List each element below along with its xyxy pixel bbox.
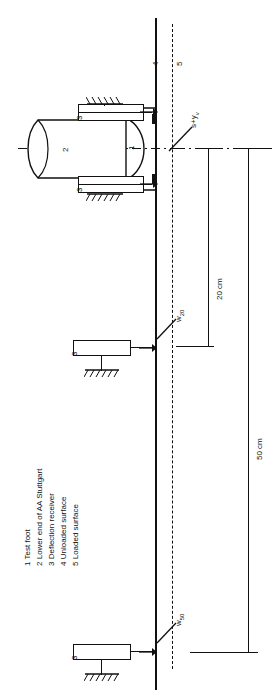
deflection-label-s-plus-y: s+yv — [190, 112, 200, 128]
legend-num-5: 5 — [71, 562, 80, 566]
s-plus-y-text: s+y — [189, 115, 198, 128]
ground-support-middle-icon — [84, 369, 120, 383]
dim50-line — [248, 148, 249, 652]
deflection-label-w50: w50 — [175, 614, 185, 626]
loaded-surface-line — [172, 24, 173, 669]
legend-item-1: 1 Test foot — [24, 529, 32, 566]
receiver-bottom-arrow-icon — [139, 646, 157, 658]
legend-text-4: Unloaded surface — [59, 497, 68, 560]
cylinder-part-2 — [26, 118, 130, 180]
label-1: 1 — [128, 146, 136, 150]
legend-num-3: 3 — [47, 562, 56, 566]
dimension-50cm-label: 50 cm — [256, 438, 264, 460]
receiver-top-arrow-icon — [140, 106, 158, 118]
dim20-line — [208, 148, 209, 346]
label-3-bottom: 3 — [71, 656, 79, 660]
right-axis-marker — [248, 155, 249, 191]
legend-text-5: Loaded surface — [71, 504, 80, 559]
legend-text-3: Deflection receiver — [47, 493, 56, 559]
deflection-label-w20: w20 — [175, 310, 185, 322]
dimension-20cm-label: 20 cm — [216, 278, 224, 300]
legend-item-3: 3 Deflection receiver — [48, 493, 56, 566]
legend-text-2: Lower end of AA Stuttgart — [35, 469, 44, 560]
label-3-top2: 3 — [76, 188, 84, 192]
legend-num-4: 4 — [59, 562, 68, 566]
receiver-top2-arrow-icon — [140, 178, 158, 190]
legend-num-2: 2 — [35, 562, 44, 566]
receiver-top-ground-stem — [104, 104, 105, 106]
w50-subscript: 50 — [179, 614, 185, 621]
w20-subscript: 20 — [179, 310, 185, 317]
label-2: 2 — [62, 148, 70, 152]
legend-item-5: 5 Loaded surface — [72, 504, 80, 566]
label-5: 5 — [176, 62, 184, 66]
label-3-top: 3 — [76, 116, 84, 120]
diagram-canvas: 4 5 2 1 — [0, 0, 275, 698]
deflection-receiver-middle — [73, 340, 131, 356]
deflection-receiver-bottom — [73, 644, 131, 660]
label-4: 4 — [152, 62, 160, 66]
dim50-tick-top — [240, 148, 271, 149]
legend-item-4: 4 Unloaded surface — [60, 497, 68, 566]
legend-text-1: Test foot — [23, 529, 32, 559]
legend-item-2: 2 Lower end of AA Stuttgart — [36, 469, 44, 566]
label-3-middle: 3 — [71, 352, 79, 356]
ground-support-top-icon — [86, 84, 124, 105]
ground-support-bottom-icon — [84, 673, 120, 687]
legend-num-1: 1 — [23, 562, 32, 566]
ground-support-top2-icon — [86, 193, 124, 214]
receiver-middle-arrow-icon — [139, 342, 157, 354]
s-plus-y-subscript: v — [194, 112, 200, 115]
dim20-tick-bottom — [176, 346, 214, 347]
w20-text: w — [174, 316, 183, 322]
leader-s-plus-y — [168, 126, 194, 152]
w50-text: w — [174, 620, 183, 626]
dim20-tick-top — [200, 148, 217, 149]
dim50-tick-bottom — [190, 652, 258, 653]
